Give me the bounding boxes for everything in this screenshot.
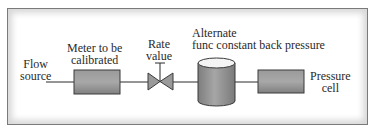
back-pressure-line2: func constant back pressure xyxy=(192,39,325,51)
rate-valve-icon xyxy=(148,63,173,90)
pressure-cell-line2: cell xyxy=(310,82,351,94)
flow-source-label: Flow source xyxy=(20,58,51,82)
back-pressure-cylinder xyxy=(198,58,235,106)
meter-line2: calibrated xyxy=(67,54,122,66)
pressure-cell-label: Pressure cell xyxy=(310,70,351,94)
rate-valve-line2: value xyxy=(146,50,172,62)
flow-source-line2: source xyxy=(20,70,51,82)
rate-valve-label: Rate value xyxy=(146,38,172,62)
pressure-cell-box xyxy=(258,70,304,93)
meter-label: Meter to be calibrated xyxy=(67,42,122,66)
back-pressure-label: Alternate func constant back pressure xyxy=(192,27,325,51)
meter-box xyxy=(74,70,120,94)
flow-diagram xyxy=(0,0,377,131)
